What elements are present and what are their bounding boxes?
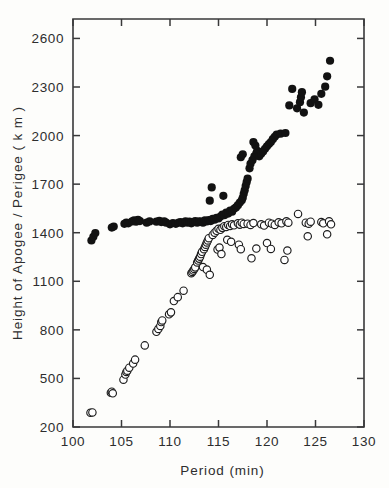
- scatter-plot: 100105110115120125130 200500800110014001…: [0, 0, 389, 488]
- data-point-apogee: [208, 183, 216, 191]
- data-point-perigee: [285, 219, 292, 226]
- data-point-apogee: [110, 222, 118, 230]
- data-point-perigee: [141, 342, 148, 349]
- data-point-apogee: [317, 90, 325, 98]
- y-tick-label: 500: [40, 371, 64, 386]
- data-point-perigee: [307, 218, 314, 225]
- data-point-apogee: [285, 101, 293, 109]
- y-tick-label: 1700: [32, 177, 64, 192]
- data-point-apogee: [136, 217, 144, 225]
- data-point-apogee: [326, 57, 334, 65]
- y-axis-ticks: 200500800110014001700200023002600: [32, 31, 364, 435]
- x-tick-label: 105: [109, 434, 133, 449]
- data-point-apogee: [251, 142, 259, 150]
- y-tick-label: 1100: [33, 274, 64, 289]
- data-point-perigee: [206, 271, 213, 278]
- x-tick-label: 120: [255, 434, 279, 449]
- data-point-perigee: [327, 221, 334, 228]
- data-point-perigee: [267, 245, 274, 252]
- data-point-apogee: [206, 197, 214, 205]
- data-point-perigee: [253, 245, 260, 252]
- figure-container: 100105110115120125130 200500800110014001…: [0, 0, 389, 488]
- data-point-perigee: [281, 256, 288, 263]
- x-axis-title: Period (min): [180, 463, 264, 478]
- y-tick-label: 2000: [32, 129, 64, 144]
- data-point-perigee: [237, 246, 244, 253]
- data-point-apogee: [91, 229, 99, 237]
- data-point-perigee: [180, 287, 187, 294]
- data-point-perigee: [250, 219, 257, 226]
- data-point-perigee: [227, 238, 234, 245]
- data-point-perigee: [167, 309, 174, 316]
- data-point-apogee: [244, 175, 252, 183]
- data-point-perigee: [89, 409, 96, 416]
- data-point-perigee: [159, 317, 166, 324]
- y-tick-label: 800: [40, 323, 64, 338]
- data-point-apogee: [323, 72, 331, 80]
- data-point-perigee: [284, 247, 291, 254]
- x-tick-label: 115: [207, 434, 230, 449]
- y-tick-label: 1400: [32, 226, 64, 241]
- data-point-perigee: [323, 231, 330, 238]
- y-axis-title: Height of Apogee / Perigee ( k m ): [10, 106, 25, 340]
- data-point-apogee: [321, 83, 329, 91]
- y-tick-label: 2600: [32, 31, 64, 46]
- x-tick-label: 125: [303, 434, 327, 449]
- data-point-perigee: [109, 390, 116, 397]
- x-tick-label: 100: [61, 434, 85, 449]
- y-tick-label: 2300: [32, 80, 64, 95]
- data-point-perigee: [131, 356, 138, 363]
- data-point-perigee: [304, 233, 311, 240]
- data-point-apogee: [219, 192, 227, 200]
- x-tick-label: 130: [352, 434, 376, 449]
- data-point-perigee: [294, 210, 301, 217]
- data-point-apogee: [314, 101, 322, 109]
- data-point-perigee: [218, 250, 225, 257]
- y-tick-label: 200: [40, 420, 64, 435]
- x-tick-label: 110: [158, 434, 181, 449]
- data-point-apogee: [281, 129, 289, 137]
- data-point-perigee: [174, 293, 181, 300]
- data-point-apogee: [300, 108, 308, 116]
- data-points: [87, 57, 335, 417]
- data-point-apogee: [239, 150, 247, 158]
- data-point-perigee: [248, 255, 255, 262]
- data-point-apogee: [298, 88, 306, 96]
- data-point-apogee: [288, 85, 296, 93]
